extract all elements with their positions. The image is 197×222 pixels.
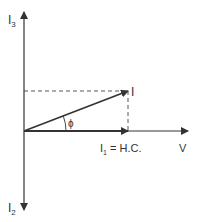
i-label: I: [131, 85, 134, 99]
i3-label: I3: [8, 13, 16, 29]
i-vector: [24, 91, 128, 131]
diagram-svg: I3 I2 I ϕ I1 = H.C. V: [0, 0, 197, 222]
phasor-diagram: I3 I2 I ϕ I1 = H.C. V: [0, 0, 197, 222]
v-label: V: [179, 142, 187, 154]
i1-label: I1 = H.C.: [100, 142, 142, 156]
i2-label: I2: [8, 201, 16, 217]
phi-angle-arc: [63, 116, 66, 131]
phi-label: ϕ: [68, 118, 74, 129]
